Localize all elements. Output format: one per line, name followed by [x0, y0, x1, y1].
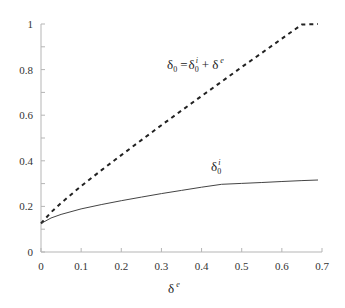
- x-tick-label: 0: [38, 260, 44, 272]
- y-tick-label: 0.8: [19, 64, 33, 76]
- x-tick-label: 0.2: [114, 260, 128, 272]
- annotation-delta0i: δ0i: [211, 158, 221, 176]
- series-delta0i-solid: [41, 180, 318, 224]
- y-tick-label: 0.2: [19, 200, 33, 212]
- y-tick-label: 1: [28, 18, 34, 30]
- x-tick-label: 0.7: [315, 260, 329, 272]
- y-tick-label: 0.6: [19, 109, 33, 121]
- chart: 00.20.40.60.81 00.10.20.30.40.50.60.7 δ0…: [0, 0, 345, 308]
- series-delta0-dashed: [41, 24, 318, 224]
- x-tick-label: 0.3: [155, 260, 169, 272]
- plot-series: [41, 24, 318, 224]
- y-tick-label: 0.4: [19, 155, 33, 167]
- annotation-sum: δ0=δ0i+δe: [167, 56, 224, 74]
- x-tick-label: 0.5: [235, 260, 249, 272]
- x-tick-label: 0.4: [195, 260, 209, 272]
- y-tick-label: 0: [28, 246, 34, 258]
- x-tick-label: 0.1: [74, 260, 88, 272]
- x-tick-label: 0.6: [275, 260, 289, 272]
- x-axis-title: δe: [168, 280, 180, 296]
